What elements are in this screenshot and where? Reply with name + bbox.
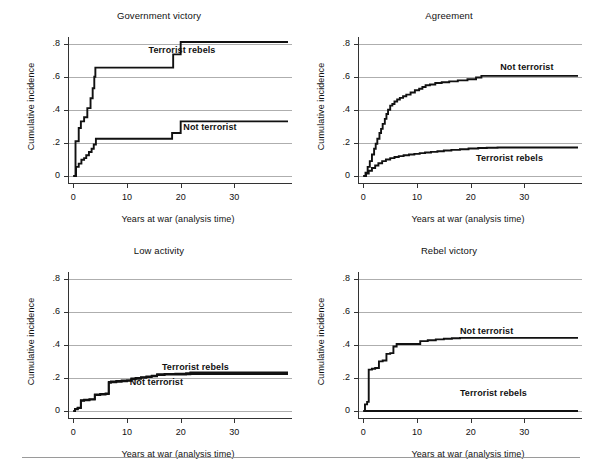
x-tick-label: 30 xyxy=(509,192,539,202)
figure-cumulative-incidence: Government victoryCumulative incidenceYe… xyxy=(0,0,598,476)
x-tick-label: 30 xyxy=(219,192,249,202)
y-tick-label: 0 xyxy=(34,405,60,415)
x-tick-label: 10 xyxy=(402,192,432,202)
x-axis-label-agreement: Years at war (analysis time) xyxy=(358,214,578,224)
plot-area-rebel-victory xyxy=(358,272,588,425)
y-tick-label: 0 xyxy=(324,405,350,415)
x-axis-label-government-victory: Years at war (analysis time) xyxy=(68,214,288,224)
y-tick-label: .4 xyxy=(324,104,350,114)
x-tick-label: 30 xyxy=(219,427,249,437)
x-tick-label: 20 xyxy=(166,192,196,202)
y-tick-label: .6 xyxy=(34,306,60,316)
plot-area-low-activity xyxy=(68,272,298,425)
y-tick-label: .8 xyxy=(324,273,350,283)
x-tick-label: 10 xyxy=(112,192,142,202)
y-tick-label: .6 xyxy=(324,306,350,316)
x-tick-label: 10 xyxy=(402,427,432,437)
y-tick-label: .2 xyxy=(324,372,350,382)
x-tick-label: 20 xyxy=(456,427,486,437)
panel-government-victory: Government victoryCumulative incidenceYe… xyxy=(18,10,300,238)
panel-rebel-victory: Rebel victoryCumulative incidenceYears a… xyxy=(308,245,590,473)
y-tick-label: 0 xyxy=(324,170,350,180)
panel-title-rebel-victory: Rebel victory xyxy=(308,245,590,256)
panel-title-agreement: Agreement xyxy=(308,10,590,21)
series-label-not-terrorist: Not terrorist xyxy=(130,377,183,387)
series-label-terrorist-rebels: Terrorist rebels xyxy=(476,153,543,163)
panel-title-low-activity: Low activity xyxy=(18,245,300,256)
y-tick-label: .4 xyxy=(34,104,60,114)
y-tick-label: .6 xyxy=(324,71,350,81)
y-tick-label: .8 xyxy=(324,38,350,48)
y-tick-label: .6 xyxy=(34,71,60,81)
series-label-terrorist-rebels: Terrorist rebels xyxy=(460,388,527,398)
x-tick-label: 10 xyxy=(112,427,142,437)
y-tick-label: .2 xyxy=(34,372,60,382)
x-tick-label: 30 xyxy=(509,427,539,437)
curve-not-terrorist xyxy=(363,338,578,411)
series-label-terrorist-rebels: Terrorist rebels xyxy=(162,362,229,372)
footer-rule xyxy=(22,457,580,458)
x-tick-label: 20 xyxy=(166,427,196,437)
series-label-not-terrorist: Not terrorist xyxy=(500,62,553,72)
panel-title-government-victory: Government victory xyxy=(18,10,300,21)
series-label-not-terrorist: Not terrorist xyxy=(183,122,236,132)
y-tick-label: .2 xyxy=(324,137,350,147)
plot-area-agreement xyxy=(358,37,588,190)
y-tick-label: .4 xyxy=(34,339,60,349)
x-tick-label: 0 xyxy=(58,192,88,202)
curve-terrorist-rebels xyxy=(73,42,288,176)
y-tick-label: .2 xyxy=(34,137,60,147)
series-label-not-terrorist: Not terrorist xyxy=(460,326,513,336)
x-tick-label: 0 xyxy=(348,192,378,202)
y-tick-label: .8 xyxy=(34,273,60,283)
y-tick-label: 0 xyxy=(34,170,60,180)
y-tick-label: .8 xyxy=(34,38,60,48)
x-tick-label: 0 xyxy=(348,427,378,437)
panel-grid: Government victoryCumulative incidenceYe… xyxy=(0,0,598,476)
x-tick-label: 20 xyxy=(456,192,486,202)
panel-agreement: AgreementCumulative incidenceYears at wa… xyxy=(308,10,590,238)
curve-not-terrorist xyxy=(363,76,578,176)
y-tick-label: .4 xyxy=(324,339,350,349)
panel-low-activity: Low activityCumulative incidenceYears at… xyxy=(18,245,300,473)
plot-area-government-victory xyxy=(68,37,298,190)
x-tick-label: 0 xyxy=(58,427,88,437)
series-label-terrorist-rebels: Terrorist rebels xyxy=(148,45,215,55)
curve-terrorist-rebels xyxy=(363,148,578,176)
curve-not-terrorist xyxy=(73,121,288,176)
